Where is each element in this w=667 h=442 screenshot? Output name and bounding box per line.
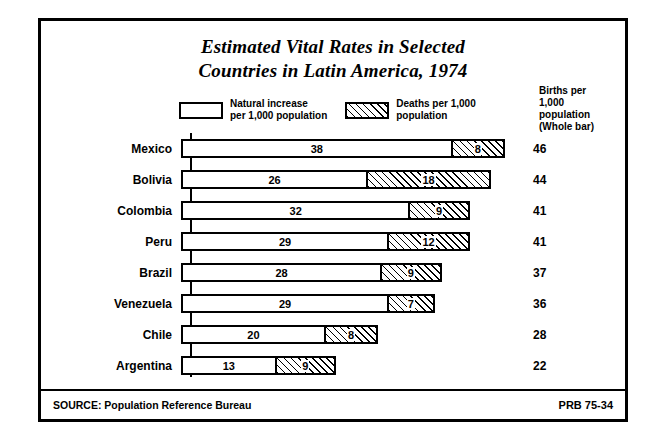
- bar-segment-deaths: 18: [366, 172, 489, 187]
- chart-row: Venezuela29736: [41, 288, 625, 319]
- chart-row: Mexico38846: [41, 133, 625, 164]
- stacked-bar: 208: [181, 325, 378, 344]
- stacked-bar: 289: [181, 263, 442, 282]
- chart-row: Bolivia261844: [41, 164, 625, 195]
- bar-value-deaths: 9: [407, 267, 415, 279]
- bar-segment-natural-increase: 26: [183, 172, 366, 187]
- chart-legend: Natural increase per 1,000 population De…: [179, 93, 514, 127]
- births-header-line-1: Births per: [539, 85, 613, 97]
- bar-segment-natural-increase: 38: [183, 141, 451, 156]
- births-header-line-3: population: [539, 109, 613, 121]
- births-total-value: 37: [511, 266, 581, 280]
- births-total-value: 46: [511, 142, 581, 156]
- chart-row: Chile20828: [41, 319, 625, 350]
- bar-segment-natural-increase: 28: [183, 265, 380, 280]
- bar-track: 2618: [181, 164, 511, 195]
- country-label: Peru: [41, 235, 181, 249]
- bar-segment-natural-increase: 20: [183, 327, 324, 342]
- country-label: Brazil: [41, 266, 181, 280]
- legend-label-line-2: per 1,000 population: [230, 110, 327, 121]
- bar-track: 297: [181, 288, 511, 319]
- bar-segment-deaths: 7: [387, 296, 432, 311]
- stacked-bar: 388: [181, 139, 505, 158]
- bar-track: 388: [181, 133, 511, 164]
- bar-segment-natural-increase: 13: [183, 358, 275, 373]
- bar-value-natural-increase: 32: [290, 205, 302, 217]
- stacked-bar: 2618: [181, 170, 491, 189]
- bar-value-deaths: 8: [347, 329, 355, 341]
- bar-segment-natural-increase: 29: [183, 234, 387, 249]
- chart-footer: SOURCE: Population Reference Bureau PRB …: [41, 389, 625, 419]
- bar-value-deaths: 9: [301, 360, 309, 372]
- births-total-value: 41: [511, 204, 581, 218]
- page-title: Estimated Vital Rates in Selected Countr…: [41, 35, 625, 83]
- bar-track: 208: [181, 319, 511, 350]
- legend-label-line-1: Natural increase: [230, 98, 308, 109]
- publication-code: PRB 75-34: [559, 399, 613, 411]
- bar-value-natural-increase: 13: [223, 360, 235, 372]
- bar-segment-deaths: 8: [451, 141, 503, 156]
- chart-row: Peru291241: [41, 226, 625, 257]
- legend-label-line-1: Deaths per 1,000: [396, 98, 476, 109]
- bar-segment-deaths: 9: [380, 265, 439, 280]
- stacked-bar: 139: [181, 356, 336, 375]
- bar-segment-deaths: 12: [387, 234, 468, 249]
- chart-row: Colombia32941: [41, 195, 625, 226]
- country-label: Venezuela: [41, 297, 181, 311]
- legend-swatch-hatched-icon: [345, 102, 389, 119]
- bar-value-natural-increase: 29: [279, 298, 291, 310]
- legend-swatch-white-icon: [179, 102, 223, 119]
- births-total-value: 28: [511, 328, 581, 342]
- country-label: Argentina: [41, 359, 181, 373]
- bar-value-deaths: 8: [474, 143, 482, 155]
- title-line-2: Countries in Latin America, 1974: [41, 59, 625, 83]
- legend-label-line-2: population: [396, 110, 447, 121]
- bar-segment-deaths: 8: [324, 327, 376, 342]
- bar-value-deaths: 9: [435, 205, 443, 217]
- chart-row: Brazil28937: [41, 257, 625, 288]
- bar-track: 289: [181, 257, 511, 288]
- legend-item-natural-increase: Natural increase per 1,000 population: [179, 98, 327, 122]
- births-header-line-2: 1,000: [539, 97, 613, 109]
- chart-frame: Estimated Vital Rates in Selected Countr…: [38, 18, 628, 422]
- legend-label-deaths: Deaths per 1,000 population: [396, 98, 476, 122]
- bar-value-deaths: 18: [421, 174, 435, 186]
- bar-track: 329: [181, 195, 511, 226]
- bar-value-natural-increase: 26: [268, 174, 280, 186]
- title-line-1: Estimated Vital Rates in Selected: [41, 35, 625, 59]
- stacked-bar: 2912: [181, 232, 470, 251]
- bar-value-natural-increase: 38: [311, 143, 323, 155]
- bar-segment-natural-increase: 32: [183, 203, 408, 218]
- country-label: Mexico: [41, 142, 181, 156]
- bar-segment-deaths: 9: [408, 203, 467, 218]
- bar-value-deaths: 12: [421, 236, 435, 248]
- bar-segment-deaths: 9: [275, 358, 334, 373]
- chart-row: Argentina13922: [41, 350, 625, 381]
- bar-value-natural-increase: 29: [279, 236, 291, 248]
- stacked-bar: 329: [181, 201, 470, 220]
- bar-segment-natural-increase: 29: [183, 296, 387, 311]
- births-total-value: 44: [511, 173, 581, 187]
- country-label: Bolivia: [41, 173, 181, 187]
- bar-value-deaths: 7: [407, 298, 415, 310]
- bar-chart: Mexico38846Bolivia261844Colombia32941Per…: [41, 133, 625, 377]
- legend-label-natural-increase: Natural increase per 1,000 population: [230, 98, 327, 122]
- births-total-value: 22: [511, 359, 581, 373]
- stacked-bar: 297: [181, 294, 435, 313]
- births-total-value: 36: [511, 297, 581, 311]
- bar-track: 2912: [181, 226, 511, 257]
- bar-value-natural-increase: 20: [247, 329, 259, 341]
- country-label: Chile: [41, 328, 181, 342]
- country-label: Colombia: [41, 204, 181, 218]
- births-total-value: 41: [511, 235, 581, 249]
- source-note: SOURCE: Population Reference Bureau: [53, 399, 251, 411]
- bar-value-natural-increase: 28: [275, 267, 287, 279]
- bar-track: 139: [181, 350, 511, 381]
- births-header-line-4: (Whole bar): [539, 121, 613, 133]
- legend-item-deaths: Deaths per 1,000 population: [345, 98, 476, 122]
- births-column-header: Births per 1,000 population (Whole bar): [539, 85, 613, 133]
